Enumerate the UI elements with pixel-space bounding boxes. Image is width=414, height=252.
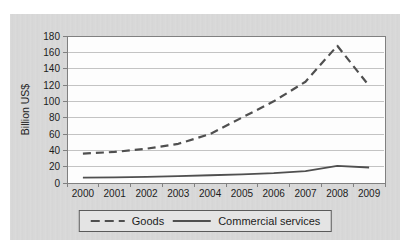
legend-item-commercial-services: Commercial services xyxy=(172,215,320,227)
x-tick-label: 2002 xyxy=(135,188,158,199)
plot-area xyxy=(67,36,385,183)
x-tick-label: 2009 xyxy=(358,188,381,199)
legend-label-goods: Goods xyxy=(132,215,164,227)
x-tick-label: 2004 xyxy=(199,188,222,199)
y-tick-label: 100 xyxy=(43,96,60,107)
goods-dashed-line-swatch xyxy=(90,217,126,225)
y-tick-label: 0 xyxy=(54,178,60,189)
y-tick-label: 80 xyxy=(49,112,61,123)
y-tick-label: 60 xyxy=(49,129,61,140)
y-tick-label: 140 xyxy=(43,63,60,74)
legend-item-goods: Goods xyxy=(90,215,164,227)
x-tick-label: 2001 xyxy=(104,188,127,199)
y-tick-label: 40 xyxy=(49,145,61,156)
chart-card: 0204060801001201401601802000200120022003… xyxy=(10,14,400,240)
line-chart: 0204060801001201401601802000200120022003… xyxy=(10,14,400,240)
y-tick-label: 120 xyxy=(43,80,60,91)
y-tick-label: 160 xyxy=(43,47,60,58)
x-tick-label: 2008 xyxy=(326,188,349,199)
y-axis-title: Billion US$ xyxy=(19,84,31,136)
commercial-services-solid-line-swatch xyxy=(172,217,212,225)
y-tick-label: 20 xyxy=(49,161,61,172)
x-tick-label: 2007 xyxy=(294,188,317,199)
x-tick-label: 2005 xyxy=(231,188,254,199)
x-tick-label: 2000 xyxy=(72,188,95,199)
y-tick-label: 180 xyxy=(43,31,60,42)
x-tick-label: 2006 xyxy=(263,188,286,199)
legend-label-commercial-services: Commercial services xyxy=(218,215,320,227)
x-tick-label: 2003 xyxy=(167,188,190,199)
legend: Goods Commercial services xyxy=(79,210,332,232)
